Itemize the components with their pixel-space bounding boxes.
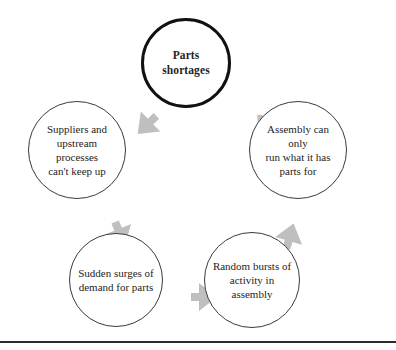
node-assembly-can-only-run: Assembly can only run what it has parts … — [249, 101, 347, 199]
node-suppliers-upstream-processes: Suppliers and upstream processes can't k… — [28, 101, 126, 199]
node-sudden-surges-of-demand: Sudden surges of demand for parts — [69, 233, 163, 327]
node-suppliers-upstream-processes-label: Suppliers and upstream processes can't k… — [29, 122, 125, 178]
node-parts-shortages: Parts shortages — [141, 18, 231, 108]
node-random-bursts-of-activity-label: Random bursts of activity in assembly — [205, 259, 299, 301]
node-random-bursts-of-activity: Random bursts of activity in assembly — [204, 232, 300, 328]
node-assembly-can-only-run-label: Assembly can only run what it has parts … — [250, 122, 346, 178]
node-parts-shortages-label: Parts shortages — [144, 48, 228, 77]
bottom-divider — [0, 341, 396, 343]
cycle-diagram-canvas: Parts shortages Assembly can only run wh… — [0, 0, 396, 350]
node-sudden-surges-of-demand-label: Sudden surges of demand for parts — [72, 266, 160, 294]
arrow-suppliers-to-shortages — [127, 105, 167, 145]
